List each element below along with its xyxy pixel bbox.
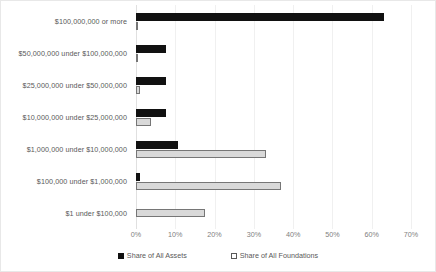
bar-foundations	[136, 86, 140, 94]
gridline	[411, 5, 412, 229]
category-label: $100,000,000 or more	[55, 17, 127, 26]
bar-row	[136, 69, 411, 101]
bar-group	[136, 13, 411, 30]
bar-foundations	[136, 150, 266, 158]
value-tick-label: 30%	[247, 230, 261, 239]
value-tick-label: 50%	[325, 230, 339, 239]
value-tick-label: 60%	[365, 230, 379, 239]
category-tick: $100,000,000 or more	[1, 5, 132, 37]
bar-assets	[136, 141, 178, 149]
bar-assets	[136, 13, 384, 21]
category-label: $10,000,000 under $25,000,000	[23, 113, 127, 122]
legend: Share of All Assets Share of All Foundat…	[1, 251, 435, 260]
legend-label: Share of All Assets	[127, 251, 187, 260]
legend-swatch-icon	[231, 253, 237, 259]
legend-swatch-icon	[118, 253, 124, 259]
bar-row	[136, 5, 411, 37]
category-tick: $10,000,000 under $25,000,000	[1, 101, 132, 133]
category-label: $25,000,000 under $50,000,000	[23, 81, 127, 90]
legend-entry-foundations: Share of All Foundations	[231, 251, 318, 260]
value-tick-label: 10%	[168, 230, 182, 239]
bar-foundations	[136, 209, 205, 217]
bar-chart: $100,000,000 or more $50,000,000 under $…	[0, 0, 436, 272]
category-label: $100,000 under $1,000,000	[37, 177, 127, 186]
value-tick-label: 0%	[131, 230, 141, 239]
bar-assets	[136, 77, 166, 85]
value-axis: 0%10%20%30%40%50%60%70%	[136, 230, 411, 243]
bar-row	[136, 101, 411, 133]
category-tick: $100,000 under $1,000,000	[1, 165, 132, 197]
bar-group	[136, 45, 411, 62]
bar-assets	[136, 45, 166, 53]
bar-row	[136, 37, 411, 69]
bar-foundations	[136, 118, 151, 126]
value-tick-label: 70%	[404, 230, 418, 239]
bar-foundations	[136, 182, 281, 190]
category-axis: $100,000,000 or more $50,000,000 under $…	[1, 5, 132, 229]
bar-foundations	[136, 22, 138, 30]
bar-group	[136, 209, 411, 217]
category-label: $50,000,000 under $100,000,000	[19, 49, 127, 58]
value-tick-label: 40%	[286, 230, 300, 239]
bar-group	[136, 109, 411, 126]
value-tick-label: 20%	[207, 230, 221, 239]
bar-assets	[136, 109, 166, 117]
category-label: $1 under $100,000	[65, 209, 127, 218]
category-tick: $1,000,000 under $10,000,000	[1, 133, 132, 165]
legend-label: Share of All Foundations	[240, 251, 318, 260]
category-label: $1,000,000 under $10,000,000	[27, 145, 127, 154]
bar-assets	[136, 173, 140, 181]
plot-area	[136, 5, 411, 229]
bar-row	[136, 197, 411, 229]
bar-group	[136, 141, 411, 158]
category-tick: $25,000,000 under $50,000,000	[1, 69, 132, 101]
bar-foundations	[136, 54, 138, 62]
legend-entry-assets: Share of All Assets	[118, 251, 187, 260]
bar-group	[136, 77, 411, 94]
category-tick: $1 under $100,000	[1, 197, 132, 229]
bar-group	[136, 173, 411, 190]
bar-row	[136, 165, 411, 197]
bar-rows	[136, 5, 411, 229]
category-tick: $50,000,000 under $100,000,000	[1, 37, 132, 69]
bar-row	[136, 133, 411, 165]
